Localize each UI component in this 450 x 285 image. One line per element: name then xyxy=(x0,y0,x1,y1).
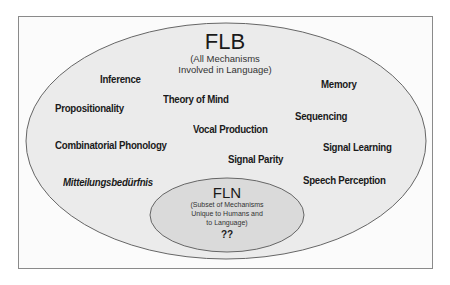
flb-heading: FLB (All Mechanisms Involved in Language… xyxy=(150,31,300,75)
mechanism-speech-perception: Speech Perception xyxy=(303,174,386,186)
mechanism-sequencing: Sequencing xyxy=(295,110,347,122)
flb-subtitle-2: Involved in Language) xyxy=(150,64,300,75)
mechanism-theory-of-mind: Theory of Mind xyxy=(163,93,229,105)
mechanism-mitteilungsbeduerfnis: Mitteilungsbedürfnis xyxy=(63,176,153,188)
fln-title: FLN xyxy=(177,185,277,200)
flb-subtitle-1: (All Mechanisms xyxy=(150,53,300,64)
mechanism-signal-parity: Signal Parity xyxy=(228,153,283,165)
fln-subtitle-1: (Subset of Mechanisms xyxy=(177,200,277,209)
mechanism-signal-learning: Signal Learning xyxy=(323,141,392,153)
fln-subtitle-3: to Language) xyxy=(177,218,277,227)
mechanism-vocal-production: Vocal Production xyxy=(193,123,268,135)
mechanism-combinatorial-phonology: Combinatorial Phonology xyxy=(55,139,167,151)
mechanism-propositionality: Propositionality xyxy=(55,102,124,114)
flb-title: FLB xyxy=(150,31,300,53)
mechanism-inference: Inference xyxy=(100,73,141,85)
fln-subtitle-2: Unique to Humans and xyxy=(177,209,277,218)
fln-heading: FLN (Subset of Mechanisms Unique to Huma… xyxy=(177,185,277,240)
mechanism-memory: Memory xyxy=(321,78,357,90)
fln-unknown: ?? xyxy=(177,229,277,240)
